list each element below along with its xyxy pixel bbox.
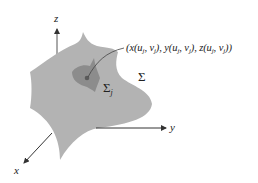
patch-label-symbol: Σ [103, 80, 111, 95]
point-coordinates-label: (x(uj, vj), y(uj, vj), z(uj, vj)) [126, 43, 232, 55]
patch-label: Σj [103, 81, 113, 97]
patch-label-subscript: j [111, 88, 113, 97]
x-axis-label: x [14, 165, 19, 176]
x-axis [24, 133, 52, 163]
y-axis-label: y [170, 122, 175, 133]
z-axis-label: z [54, 13, 58, 24]
surface-diagram: z y x (x(uj, vj), y(uj, vj), z(uj, vj)) … [0, 0, 258, 183]
surface-label: Σ [138, 70, 146, 83]
diagram-canvas [0, 0, 258, 183]
